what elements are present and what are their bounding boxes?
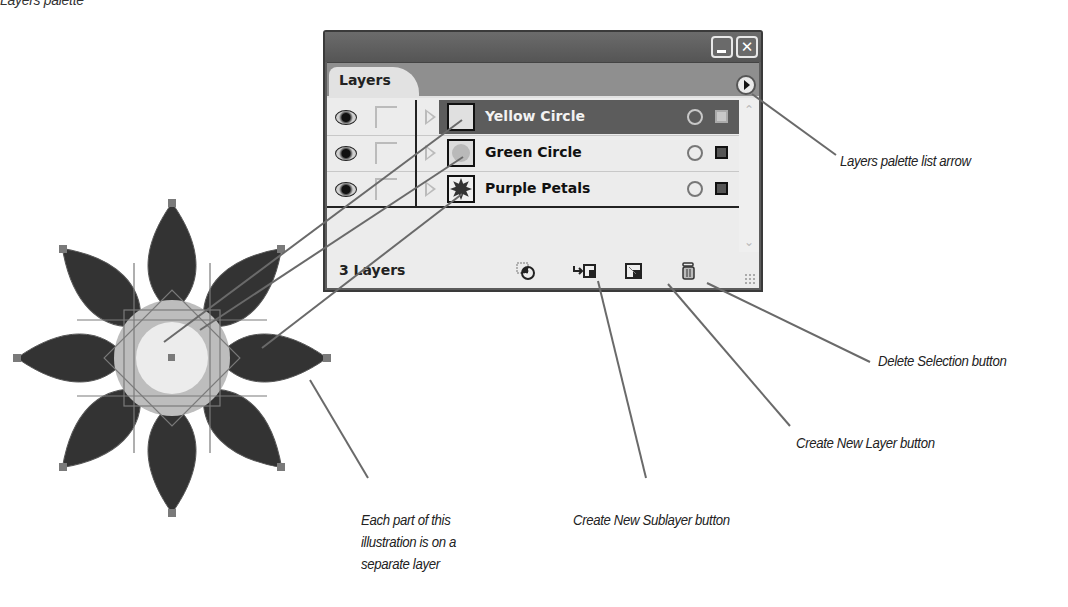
layers-palette: ✕ Layers Yellow Circle	[323, 30, 763, 292]
figure-caption: Layers palette	[0, 0, 84, 8]
callout-illustration-line2: illustration is on a	[361, 531, 456, 552]
scroll-down-arrow-icon[interactable]: ⌄	[741, 234, 757, 250]
selection-indicator[interactable]	[715, 110, 728, 123]
selection-indicator[interactable]	[715, 182, 728, 195]
trash-icon	[679, 261, 699, 281]
callout-illustration-line3: separate layer	[361, 553, 440, 574]
expand-triangle-icon[interactable]	[425, 145, 436, 161]
expand-triangle-icon[interactable]	[425, 109, 436, 125]
target-circle-icon[interactable]	[687, 145, 703, 161]
palette-list-arrow-button[interactable]	[736, 75, 756, 95]
layers-scrollbar[interactable]: ⌃ ⌄	[739, 100, 759, 252]
purple-petals-artwork	[17, 203, 327, 513]
visibility-toggle[interactable]	[327, 100, 365, 134]
expand-triangle-icon[interactable]	[425, 181, 436, 197]
layers-list-panel: Yellow Circle Green Circle	[327, 98, 759, 288]
layer-thumbnail-yellow-circle	[447, 103, 475, 131]
layer-row-green-circle[interactable]: Green Circle	[327, 136, 741, 172]
callout-create-new-layer: Create New Layer button	[796, 432, 935, 453]
layer-name[interactable]: Purple Petals	[485, 180, 590, 196]
eye-icon	[335, 182, 357, 197]
lock-toggle[interactable]	[375, 178, 397, 200]
palette-footer: 3 Layers	[327, 254, 759, 288]
visibility-toggle[interactable]	[327, 172, 365, 206]
resize-grip[interactable]	[744, 273, 756, 285]
target-circle-icon[interactable]	[687, 181, 703, 197]
clipping-mask-icon	[515, 261, 537, 281]
new-sublayer-icon	[573, 261, 597, 281]
callout-create-new-sublayer: Create New Sublayer button	[573, 509, 730, 530]
layer-name[interactable]: Yellow Circle	[485, 108, 585, 124]
eye-icon	[335, 110, 357, 125]
layers-list: Yellow Circle Green Circle	[327, 100, 741, 208]
layer-thumbnail-green-circle	[447, 139, 475, 167]
palette-title-bar[interactable]: ✕	[325, 32, 761, 62]
scroll-up-arrow-icon[interactable]: ⌃	[741, 102, 757, 118]
new-layer-icon	[623, 261, 645, 281]
petals-thumb-icon	[449, 177, 473, 201]
close-button[interactable]: ✕	[736, 36, 758, 58]
tab-layers[interactable]: Layers	[329, 67, 419, 99]
callout-illustration-line1: Each part of this	[361, 509, 450, 530]
lock-toggle[interactable]	[375, 142, 397, 164]
minimize-button[interactable]	[711, 36, 733, 58]
visibility-toggle[interactable]	[327, 136, 365, 170]
target-circle-icon[interactable]	[687, 109, 703, 125]
eye-icon	[335, 146, 357, 161]
create-new-sublayer-button[interactable]	[573, 261, 593, 279]
delete-selection-button[interactable]	[679, 261, 699, 279]
callout-delete-selection: Delete Selection button	[878, 350, 1006, 371]
lock-toggle[interactable]	[375, 106, 397, 128]
yellow-circle-artwork	[136, 322, 208, 394]
create-new-layer-button[interactable]	[623, 261, 643, 279]
palette-tab-row: Layers	[327, 62, 759, 99]
green-circle-artwork	[114, 300, 230, 416]
make-clipping-mask-button[interactable]	[515, 261, 535, 279]
selection-indicator[interactable]	[715, 146, 728, 159]
layer-row-purple-petals[interactable]: Purple Petals	[327, 172, 741, 208]
list-divider	[327, 206, 741, 208]
callout-list-arrow: Layers palette list arrow	[840, 150, 971, 171]
layer-name[interactable]: Green Circle	[485, 144, 582, 160]
layer-row-yellow-circle[interactable]: Yellow Circle	[327, 100, 741, 136]
layer-count: 3 Layers	[339, 262, 405, 278]
layer-thumbnail-purple-petals	[447, 175, 475, 203]
minimize-icon	[717, 50, 726, 53]
